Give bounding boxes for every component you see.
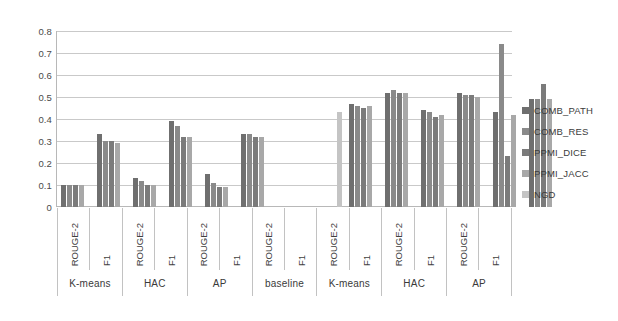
legend-item[interactable]: COMB_RES bbox=[522, 121, 616, 142]
bar bbox=[187, 137, 192, 207]
y-axis-tick-label: 0.2 bbox=[18, 158, 52, 169]
bar bbox=[139, 181, 144, 207]
category-tick: ROUGE-2 bbox=[317, 208, 349, 270]
category-tick-label: ROUGE-2 bbox=[68, 223, 79, 266]
legend-item[interactable]: NGD bbox=[522, 184, 616, 205]
bar-group bbox=[345, 31, 381, 207]
bar bbox=[145, 185, 150, 207]
bar bbox=[79, 185, 84, 207]
legend-swatch-icon bbox=[522, 128, 529, 135]
bar bbox=[205, 174, 210, 207]
bar-group bbox=[273, 31, 309, 207]
bar bbox=[61, 185, 66, 207]
category-axis: ROUGE-2F1ROUGE-2F1ROUGE-2F1ROUGE-2F1ROUG… bbox=[57, 208, 512, 270]
legend-swatch-icon bbox=[522, 170, 529, 177]
bar bbox=[463, 95, 468, 207]
bar bbox=[337, 112, 342, 207]
supergroup-label: HAC bbox=[123, 270, 188, 296]
legend-item-label: PPMI_DICE bbox=[534, 147, 587, 158]
bar bbox=[457, 93, 462, 207]
legend: COMB_PATHCOMB_RESPPMI_DICEPPMI_JACCNGD bbox=[522, 100, 616, 205]
bar bbox=[241, 134, 246, 207]
bar bbox=[493, 112, 498, 207]
category-tick-label: F1 bbox=[360, 255, 371, 266]
category-tick-label: F1 bbox=[425, 255, 436, 266]
y-axis-tick-label: 0.7 bbox=[18, 48, 52, 59]
supergroup-label: K-means bbox=[317, 270, 382, 296]
bar bbox=[397, 93, 402, 207]
category-tick: ROUGE-2 bbox=[382, 208, 414, 270]
supergroup-label: K-means bbox=[57, 270, 123, 296]
category-tick: F1 bbox=[479, 208, 511, 270]
bar bbox=[67, 185, 72, 207]
bar bbox=[367, 106, 372, 207]
legend-swatch-icon bbox=[522, 107, 529, 114]
bar bbox=[439, 115, 444, 207]
supergroup-label: AP bbox=[188, 270, 253, 296]
category-tick: F1 bbox=[90, 208, 122, 270]
legend-item[interactable]: PPMI_DICE bbox=[522, 142, 616, 163]
bar bbox=[73, 185, 78, 207]
bar bbox=[391, 90, 396, 207]
bar bbox=[223, 187, 228, 207]
category-tick-label: ROUGE-2 bbox=[457, 223, 468, 266]
supergroup-label: AP bbox=[447, 270, 512, 296]
category-tick-label: ROUGE-2 bbox=[198, 223, 209, 266]
bar bbox=[427, 112, 432, 207]
supergroup-label: baseline bbox=[253, 270, 318, 296]
bar-group bbox=[417, 31, 453, 207]
bar-group bbox=[489, 31, 525, 207]
legend-swatch-icon bbox=[522, 191, 529, 198]
bar-group bbox=[201, 31, 237, 207]
category-tick: F1 bbox=[415, 208, 447, 270]
bar bbox=[469, 95, 474, 207]
bar-group bbox=[453, 31, 489, 207]
bar-group bbox=[93, 31, 129, 207]
bar bbox=[433, 117, 438, 207]
y-axis-tick-label: 0.4 bbox=[18, 114, 52, 125]
y-axis-tick-label: 0 bbox=[18, 202, 52, 213]
bar bbox=[97, 134, 102, 207]
category-tick: F1 bbox=[220, 208, 252, 270]
bar bbox=[109, 141, 114, 207]
category-tick-label: F1 bbox=[101, 255, 112, 266]
bar bbox=[385, 93, 390, 207]
category-tick-label: ROUGE-2 bbox=[263, 223, 274, 266]
bar-group bbox=[129, 31, 165, 207]
supergroup-label: HAC bbox=[382, 270, 447, 296]
bar bbox=[211, 183, 216, 207]
bar bbox=[259, 137, 264, 207]
category-tick-label: ROUGE-2 bbox=[133, 223, 144, 266]
category-tick-label: F1 bbox=[165, 255, 176, 266]
legend-item-label: COMB_PATH bbox=[534, 105, 593, 116]
category-tick-label: F1 bbox=[490, 255, 501, 266]
y-axis-tick-label: 0.6 bbox=[18, 70, 52, 81]
bar bbox=[361, 108, 366, 207]
category-tick: F1 bbox=[350, 208, 382, 270]
category-tick: F1 bbox=[155, 208, 187, 270]
y-axis-tick-label: 0.1 bbox=[18, 180, 52, 191]
category-tick: F1 bbox=[285, 208, 317, 270]
category-tick-label: ROUGE-2 bbox=[328, 223, 339, 266]
bar bbox=[499, 44, 504, 207]
bar-group bbox=[237, 31, 273, 207]
legend-item-label: COMB_RES bbox=[534, 126, 589, 137]
legend-item[interactable]: PPMI_JACC bbox=[522, 163, 616, 184]
bar bbox=[505, 156, 510, 207]
bar bbox=[247, 134, 252, 207]
legend-item-label: NGD bbox=[534, 189, 556, 200]
legend-item[interactable]: COMB_PATH bbox=[522, 100, 616, 121]
bar-group bbox=[165, 31, 201, 207]
bar bbox=[217, 187, 222, 207]
bar bbox=[181, 137, 186, 207]
bar bbox=[349, 104, 354, 207]
bar-group bbox=[381, 31, 417, 207]
bar-chart: 0.80.70.60.50.40.30.20.10 ROUGE-2F1ROUGE… bbox=[0, 0, 618, 321]
category-tick: ROUGE-2 bbox=[57, 208, 90, 270]
bar bbox=[169, 121, 174, 207]
bar bbox=[403, 93, 408, 207]
bar bbox=[475, 97, 480, 207]
bar bbox=[103, 141, 108, 207]
bar bbox=[253, 137, 258, 207]
bar bbox=[355, 106, 360, 207]
